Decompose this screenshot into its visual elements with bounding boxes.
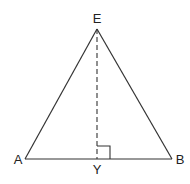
- side-eb: [97, 29, 172, 159]
- label-b: B: [176, 152, 185, 167]
- label-y: Y: [93, 162, 102, 177]
- side-ea: [25, 29, 97, 159]
- right-angle-marker: [97, 146, 110, 159]
- triangle-diagram: E A B Y: [0, 0, 190, 184]
- label-a: A: [14, 152, 23, 167]
- label-e: E: [93, 11, 102, 26]
